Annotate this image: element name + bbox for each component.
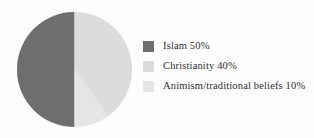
legend-item-islam[interactable]: Islam 50% [143, 36, 311, 56]
pie-slice-islam[interactable] [17, 12, 74, 127]
legend-swatch-icon-islam [143, 41, 154, 52]
legend-swatch-icon-christianity [143, 61, 154, 72]
legend-item-christianity[interactable]: Christianity 40% [143, 56, 311, 76]
legend-label-animism: Animism/traditional beliefs 10% [163, 80, 305, 92]
pie-chart-graphic [17, 12, 132, 127]
legend-label-christianity: Christianity 40% [163, 60, 237, 72]
pie-slice-group [17, 12, 132, 127]
pie-chart-figure: Islam 50% Christianity 40% Animism/tradi… [0, 0, 314, 138]
legend-label-islam: Islam 50% [163, 40, 210, 52]
legend-item-animism[interactable]: Animism/traditional beliefs 10% [143, 76, 311, 96]
pie-svg [17, 12, 132, 127]
legend-swatch-icon-animism [143, 81, 154, 92]
chart-legend: Islam 50% Christianity 40% Animism/tradi… [143, 36, 311, 96]
